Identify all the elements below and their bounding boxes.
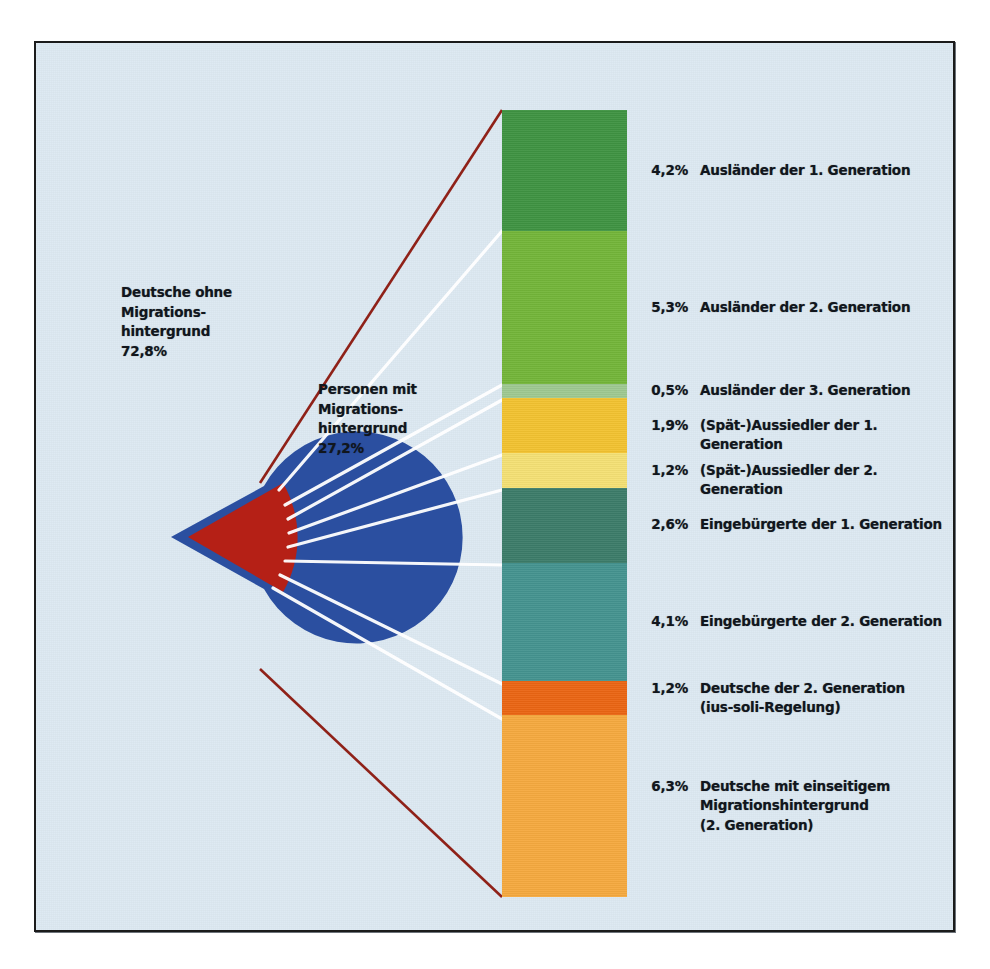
chart-frame: Deutsche ohne Migrations- hintergrund 72…	[34, 41, 955, 932]
figure-root: Deutsche ohne Migrations- hintergrund 72…	[0, 0, 990, 969]
legend-label-auslaender-1-generation: Ausländer der 1. Generation	[700, 161, 910, 181]
legend-label-spaetaussiedler-1-generation: (Spät-)Aussiedler der 1. Generation	[700, 416, 953, 455]
bar-segment-auslaender-1-generation	[502, 110, 627, 231]
legend-percent-deutsche-einseitiger-migrationshintergrund: 6,3%	[642, 777, 688, 797]
legend-label-eingebuergerte-2-generation: Eingebürgerte der 2. Generation	[700, 612, 942, 632]
stacked-bar	[502, 110, 627, 897]
legend-row-spaetaussiedler-1-generation: 1,9%(Spät-)Aussiedler der 1. Generation	[642, 416, 953, 455]
legend-row-spaetaussiedler-2-generation: 1,2%(Spät-)Aussiedler der 2. Generation	[642, 461, 953, 500]
bar-segment-spaetaussiedler-1-generation	[502, 398, 627, 453]
legend-percent-deutsche-2-generation-ius-soli: 1,2%	[642, 679, 688, 699]
legend-label-eingebuergerte-1-generation: Eingebürgerte der 1. Generation	[700, 515, 942, 535]
pie-label-deutsche-ohne-migrationshintergrund: Deutsche ohne Migrations- hintergrund 72…	[121, 283, 301, 361]
legend-percent-eingebuergerte-2-generation: 4,1%	[642, 612, 688, 632]
legend-row-deutsche-2-generation-ius-soli: 1,2%Deutsche der 2. Generation (ius-soli…	[642, 679, 905, 718]
bar-segment-deutsche-2-generation-ius-soli	[502, 681, 627, 716]
legend-label-deutsche-2-generation-ius-soli: Deutsche der 2. Generation (ius-soli-Reg…	[700, 679, 905, 718]
bar-segment-eingebuergerte-2-generation	[502, 563, 627, 681]
legend-row-eingebuergerte-1-generation: 2,6%Eingebürgerte der 1. Generation	[642, 515, 942, 535]
legend-row-auslaender-3-generation: 0,5%Ausländer der 3. Generation	[642, 381, 910, 401]
legend-row-auslaender-2-generation: 5,3%Ausländer der 2. Generation	[642, 298, 910, 318]
legend-percent-spaetaussiedler-2-generation: 1,2%	[642, 461, 688, 481]
legend-percent-auslaender-3-generation: 0,5%	[642, 381, 688, 401]
legend-percent-spaetaussiedler-1-generation: 1,9%	[642, 416, 688, 436]
legend-label-auslaender-3-generation: Ausländer der 3. Generation	[700, 381, 910, 401]
pie-label-personen-mit-migrationshintergrund: Personen mit Migrations- hintergrund 27,…	[318, 380, 483, 458]
legend-label-deutsche-einseitiger-migrationshintergrund: Deutsche mit einseitigem Migrationshinte…	[700, 777, 890, 836]
legend-percent-auslaender-1-generation: 4,2%	[642, 161, 688, 181]
bar-segment-spaetaussiedler-2-generation	[502, 453, 627, 488]
legend-percent-auslaender-2-generation: 5,3%	[642, 298, 688, 318]
legend-label-spaetaussiedler-2-generation: (Spät-)Aussiedler der 2. Generation	[700, 461, 953, 500]
bar-segment-eingebuergerte-1-generation	[502, 488, 627, 563]
bar-segment-auslaender-2-generation	[502, 231, 627, 384]
legend-row-eingebuergerte-2-generation: 4,1%Eingebürgerte der 2. Generation	[642, 612, 942, 632]
legend-label-auslaender-2-generation: Ausländer der 2. Generation	[700, 298, 910, 318]
bar-segment-auslaender-3-generation	[502, 384, 627, 398]
legend-row-auslaender-1-generation: 4,2%Ausländer der 1. Generation	[642, 161, 910, 181]
legend-percent-eingebuergerte-1-generation: 2,6%	[642, 515, 688, 535]
legend-row-deutsche-einseitiger-migrationshintergrund: 6,3%Deutsche mit einseitigem Migrationsh…	[642, 777, 890, 836]
bar-segment-deutsche-einseitiger-migrationshintergrund	[502, 715, 627, 897]
